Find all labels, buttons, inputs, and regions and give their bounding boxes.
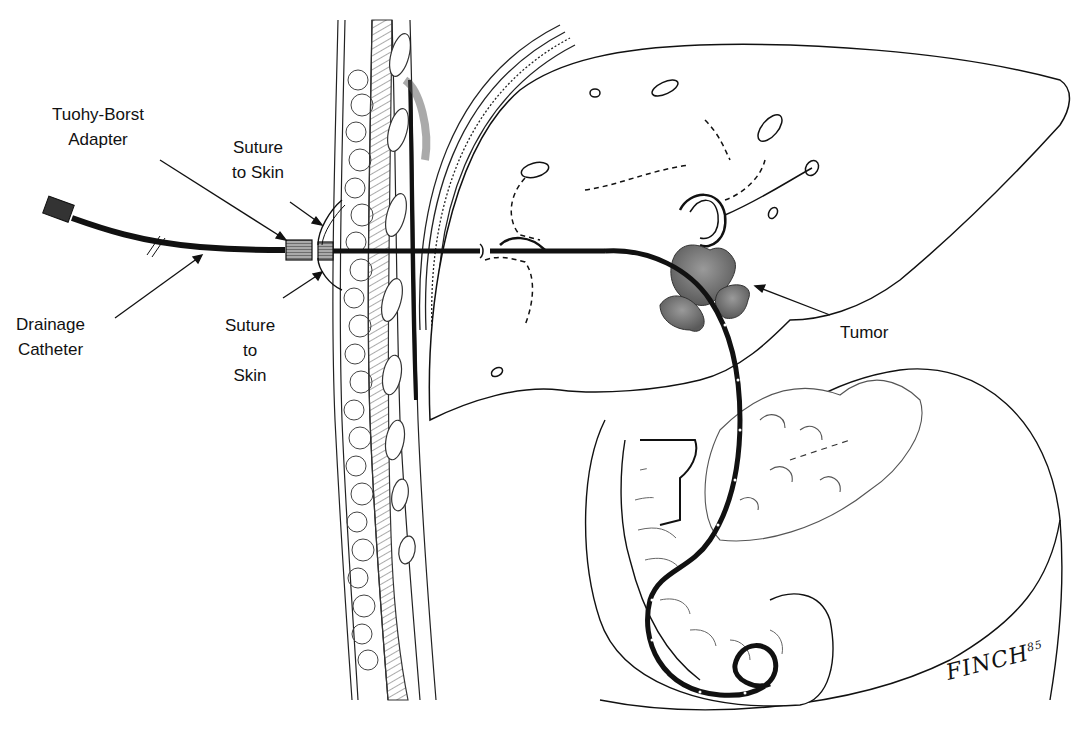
label-tumor: Tumor [840,320,889,345]
liver [429,44,1069,420]
label-suture-bottom: Suture to Skin [225,313,275,388]
label-drainage-catheter: Drainage Catheter [16,312,85,362]
illustration-canvas [0,0,1087,732]
abdominal-wall [333,20,436,700]
label-tuohy-borst-adapter: Tuohy-Borst Adapter [52,102,144,152]
label-suture-top: Suture to Skin [232,135,284,185]
